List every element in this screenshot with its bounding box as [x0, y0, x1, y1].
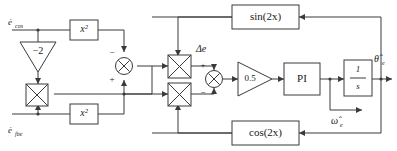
- summing-junction-left[interactable]: − +: [109, 47, 132, 84]
- input-label-e-cos: ė cos: [8, 17, 24, 29]
- square-block-bottom-label: x²: [79, 107, 88, 118]
- input-label-e-cos-sub: cos: [15, 23, 24, 29]
- gain-zero-point-five-label: 0.5: [244, 73, 256, 83]
- integrator-denominator: s: [356, 81, 360, 91]
- input-label-e-fbe-sub: fbe: [15, 131, 23, 137]
- wire-sqbot-to-sumleft: [98, 80, 124, 114]
- multiplier-mid-top[interactable]: [168, 55, 191, 78]
- cos-two-x-block[interactable]: cos(2x): [232, 121, 299, 145]
- junction-dot-ecos: [36, 28, 39, 31]
- delta-e-label: Δe: [195, 43, 207, 54]
- summing-junction-left-sign-bottom: +: [109, 74, 114, 84]
- junction-dot-pi-out: [328, 77, 331, 80]
- input-label-e-fbe-main: ė: [8, 125, 12, 135]
- square-block-top-label: x²: [79, 23, 88, 34]
- junction-dot-efbe: [36, 112, 39, 115]
- block-diagram-svg: x² x² −2 − +: [0, 0, 397, 151]
- sin-two-x-block[interactable]: sin(2x): [232, 5, 299, 29]
- output-label-theta-hat-e: θ̂ e: [374, 53, 385, 66]
- gain-minus-two[interactable]: −2: [20, 42, 56, 72]
- block-diagram-canvas: x² x² −2 − +: [0, 0, 397, 151]
- output-label-omega-sub: e: [340, 122, 343, 128]
- integrator-numerator: 1: [356, 64, 361, 74]
- input-label-e-cos-main: ė: [8, 17, 12, 27]
- pi-controller[interactable]: PI: [284, 63, 320, 95]
- gain-minus-two-label: −2: [33, 45, 44, 56]
- multiplier-left[interactable]: [26, 84, 48, 106]
- cos-two-x-label: cos(2x): [249, 126, 282, 139]
- junction-dot-theta: [379, 77, 382, 80]
- input-label-e-fbe: ė fbe: [8, 125, 23, 137]
- output-label-omega-hat-e: ω̂ e: [331, 115, 343, 128]
- summing-junction-left-sign-top: −: [109, 47, 114, 57]
- multiplier-mid-bottom[interactable]: [168, 83, 191, 106]
- summing-junction-right-sign-bottom: −: [200, 87, 205, 97]
- output-label-theta-sub: e: [382, 60, 385, 66]
- integrator-block[interactable]: 1 s: [344, 60, 372, 96]
- gain-zero-point-five[interactable]: 0.5: [238, 62, 272, 96]
- square-block-top[interactable]: x²: [70, 20, 98, 40]
- summing-junction-right-sign-top: +: [200, 60, 205, 70]
- pi-controller-label: PI: [297, 72, 307, 84]
- square-block-bottom[interactable]: x²: [70, 104, 98, 124]
- sin-two-x-label: sin(2x): [250, 10, 282, 23]
